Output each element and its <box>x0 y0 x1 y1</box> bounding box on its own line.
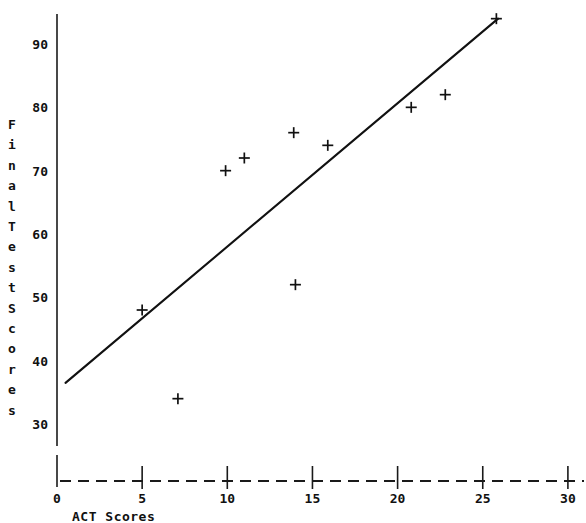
x-tick-label: 0 <box>53 491 61 506</box>
x-tick-label: 15 <box>305 491 321 506</box>
y-axis-title-char: e <box>8 382 16 397</box>
y-axis: 30405060708090 <box>32 14 57 446</box>
y-tick-label: 30 <box>32 417 48 432</box>
x-tick-label: 10 <box>219 491 235 506</box>
y-axis-title-char: T <box>8 219 16 234</box>
scatter-plot-figure: 30405060708090 051015202530 ACT ScoresFi… <box>0 0 586 523</box>
y-axis-title-char: e <box>8 239 16 254</box>
data-point <box>288 127 299 138</box>
y-axis-title-char: n <box>8 158 16 173</box>
x-tick-label: 30 <box>560 491 576 506</box>
data-point <box>220 165 231 176</box>
trend-line <box>66 19 499 383</box>
x-tick-label: 20 <box>390 491 406 506</box>
y-axis-title-char: l <box>8 199 16 214</box>
x-axis: 051015202530 <box>53 455 584 506</box>
x-tick-label: 25 <box>475 491 491 506</box>
y-axis-title-char: c <box>8 321 16 336</box>
y-axis-title-char: s <box>8 403 16 418</box>
y-axis-title-char: r <box>8 362 16 377</box>
data-point <box>406 102 417 113</box>
x-axis-title: ACT Scores <box>72 509 155 523</box>
y-axis-title-char: s <box>8 260 16 275</box>
y-tick-label: 90 <box>32 37 48 52</box>
data-point <box>290 279 301 290</box>
y-tick-label: 60 <box>32 227 48 242</box>
data-point <box>440 89 451 100</box>
data-point <box>172 393 183 404</box>
y-tick-label: 80 <box>32 100 48 115</box>
y-axis-title-char: t <box>8 280 16 295</box>
y-axis-title-char: a <box>8 178 16 193</box>
data-point-markers <box>137 13 502 404</box>
data-point <box>239 152 250 163</box>
y-axis-title-char: F <box>8 117 16 132</box>
data-point <box>322 140 333 151</box>
regression-line <box>66 19 499 383</box>
x-tick-label: 5 <box>138 491 146 506</box>
y-tick-label: 50 <box>32 290 48 305</box>
axis-labels: ACT ScoresFinalTestScores <box>8 117 155 523</box>
plot-canvas: 30405060708090 051015202530 ACT ScoresFi… <box>0 0 586 523</box>
y-axis-title-char: i <box>8 137 16 152</box>
y-tick-label: 70 <box>32 164 48 179</box>
y-axis-title-char: S <box>8 301 16 316</box>
y-tick-label: 40 <box>32 354 48 369</box>
y-axis-title-char: o <box>8 341 16 356</box>
